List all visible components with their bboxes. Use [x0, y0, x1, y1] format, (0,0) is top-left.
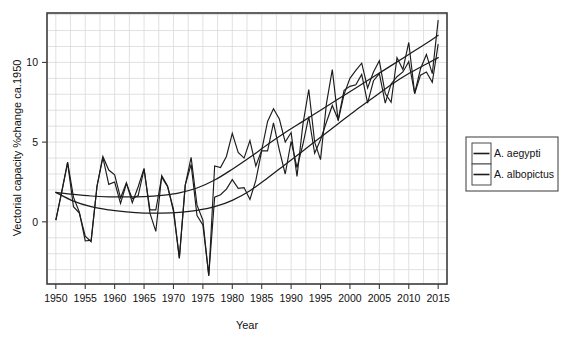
vectorial-capacity-line-chart: 1950195519601965197019751980198519901995…	[0, 0, 562, 343]
x-tick-label: 1950	[44, 292, 68, 304]
x-tick-label: 1990	[279, 292, 303, 304]
chart-figure: 1950195519601965197019751980198519901995…	[0, 0, 562, 343]
x-tick-label: 1965	[132, 292, 156, 304]
x-tick-label: 1980	[221, 292, 245, 304]
x-tick-label: 2005	[368, 292, 392, 304]
y-tick-label: 0	[32, 216, 38, 228]
y-tick-label: 5	[32, 136, 38, 148]
x-tick-label: 1975	[191, 292, 215, 304]
legend-label-albopictus: A. albopictus	[494, 168, 554, 180]
x-tick-label: 2010	[397, 292, 421, 304]
x-axis-title: Year	[236, 319, 259, 331]
x-tick-label: 2000	[338, 292, 362, 304]
x-tick-label: 1985	[250, 292, 274, 304]
x-tick-label: 1955	[74, 292, 98, 304]
x-tick-label: 1995	[309, 292, 333, 304]
x-tick-label: 2015	[426, 292, 450, 304]
x-tick-label: 1960	[103, 292, 127, 304]
legend-label-aegypti: A. aegypti	[494, 147, 541, 159]
legend: A. aegypti A. albopictus	[466, 137, 558, 191]
y-tick-label: 10	[26, 56, 38, 68]
x-tick-label: 1970	[162, 292, 186, 304]
y-axis-title: Vectorial capacity %change ca.1950	[11, 60, 23, 237]
